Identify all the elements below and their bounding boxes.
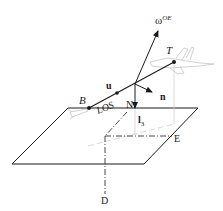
body-point <box>87 106 91 110</box>
n-label: n <box>160 91 166 102</box>
omega-vector <box>135 31 158 84</box>
omega-label: ωOE <box>155 14 172 26</box>
north-label: N <box>126 99 133 110</box>
los-label: LOS <box>94 99 116 116</box>
los-geometry-diagram: ωOE T B u n l3 LOS N E D <box>0 0 223 211</box>
body-missile-icon <box>68 109 88 119</box>
ground-track-line <box>88 124 174 146</box>
north-axis <box>105 112 127 136</box>
target-point <box>172 60 176 64</box>
l3-label: l3 <box>138 114 145 128</box>
down-label: D <box>101 195 108 206</box>
u-label: u <box>106 80 112 91</box>
n-vector <box>135 84 152 92</box>
east-label: E <box>174 133 180 144</box>
u-point <box>115 91 119 95</box>
target-label: T <box>166 44 173 56</box>
body-label: B <box>79 94 86 106</box>
